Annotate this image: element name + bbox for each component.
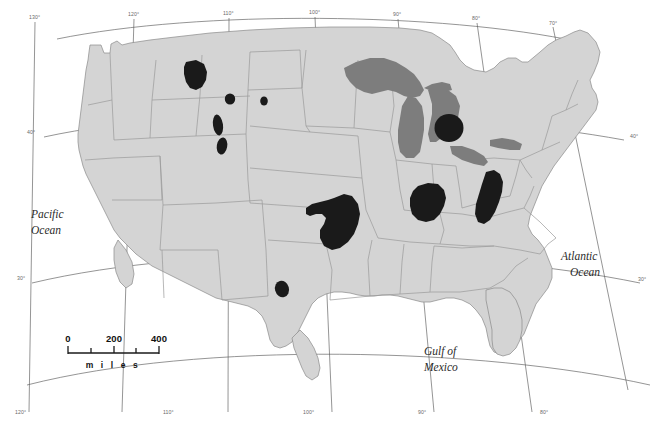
scale-tick-label-0: 0 bbox=[65, 333, 70, 344]
meridian-label-100-top: 100° bbox=[309, 9, 320, 15]
meridian-label-110-top: 110° bbox=[223, 10, 234, 16]
meridian-label-80-top: 80° bbox=[472, 15, 480, 21]
scale-tick-label-200: 200 bbox=[106, 333, 122, 344]
meridian-label-70-top: 70° bbox=[549, 20, 557, 26]
map-canvas: 130° 120° 110° 100° 90° 80° 70° 120° 110… bbox=[0, 0, 661, 440]
meridian-label-110-bottom: 110° bbox=[163, 409, 174, 415]
atlantic-ocean-label-line2: Ocean bbox=[570, 266, 600, 278]
meridian-label-100-bottom: 100° bbox=[303, 409, 314, 415]
parallel-label-40-left: 40° bbox=[27, 129, 35, 135]
meridian-label-90-bottom: 90° bbox=[418, 409, 426, 415]
region-central-michigan bbox=[435, 114, 464, 142]
meridian-label-90-top: 90° bbox=[393, 11, 401, 17]
parallel-label-30-right: 30° bbox=[638, 276, 646, 282]
map-figure: 130° 120° 110° 100° 90° 80° 70° 120° 110… bbox=[0, 0, 661, 440]
atlantic-ocean-label-line1: Atlantic bbox=[560, 250, 597, 262]
pacific-ocean-label-line2: Ocean bbox=[31, 224, 61, 236]
scale-tick-label-400: 400 bbox=[151, 333, 167, 344]
scale-unit-label: m i l e s bbox=[86, 360, 141, 370]
pacific-ocean-label-line1: Pacific bbox=[30, 208, 64, 221]
meridian-label-120-top: 120° bbox=[128, 11, 139, 17]
gulf-of-mexico-label-line2: Mexico bbox=[423, 361, 458, 373]
region-south-central-montana bbox=[225, 93, 235, 104]
meridian-label-130-top: 130° bbox=[29, 14, 40, 20]
meridian-label-80-bottom: 80° bbox=[540, 409, 548, 415]
region-eastern-montana bbox=[260, 96, 268, 105]
parallel-label-40-right: 40° bbox=[630, 133, 638, 139]
meridian-label-120-bottom: 120° bbox=[15, 409, 26, 415]
gulf-of-mexico-label-line1: Gulf of bbox=[424, 345, 458, 358]
parallel-label-30-left: 30° bbox=[17, 275, 25, 281]
